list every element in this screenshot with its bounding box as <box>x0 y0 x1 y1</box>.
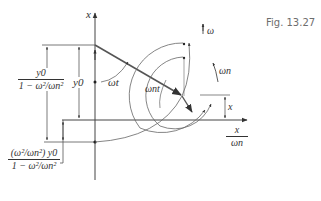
vertical-axis-label: x <box>86 9 91 20</box>
x-dimension-label: x <box>228 102 232 112</box>
omega-t-label: ωt <box>108 77 119 88</box>
amplitude-fraction-bottom: (ω²/ωn²) y0 1 − ω²/ωn² <box>8 148 60 171</box>
omega-n-label: ωn <box>219 66 231 76</box>
omega-label: ω <box>207 26 214 36</box>
y0-label: y0 <box>73 77 83 88</box>
figure-caption: Fig. 13.27 <box>266 17 315 28</box>
horizontal-axis-label: x ωn <box>226 125 248 148</box>
amplitude-fraction-top: y0 1 − ω²/ωn² <box>18 68 64 91</box>
omega-n-t-label: ωnt <box>145 84 160 94</box>
